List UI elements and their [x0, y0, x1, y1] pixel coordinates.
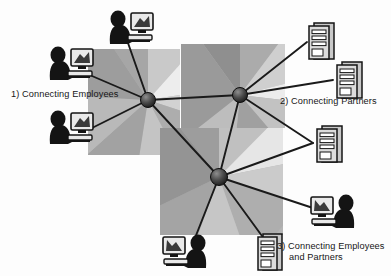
diagram-svg [0, 0, 391, 276]
label-3-line-1: 3) Connecting Employees [277, 241, 385, 251]
network-diagram-canvas: 1) Connecting Employees 2) Connecting Pa… [0, 0, 391, 276]
server-tower-icon [317, 126, 342, 162]
label-3-line-2: and Partners [277, 252, 385, 263]
person-computer-icon [311, 195, 354, 229]
person-computer-icon [50, 111, 93, 145]
left-hub-node [141, 93, 156, 108]
label-connecting-partners: 2) Connecting Partners [280, 96, 377, 107]
background-squares [55, 0, 325, 270]
label-connecting-employees: 1) Connecting Employees [11, 89, 119, 100]
server-tower-icon [309, 23, 334, 59]
label-connecting-employees-and-partners: 3) Connecting Employeesand Partners [277, 241, 385, 264]
person-computer-icon [50, 47, 93, 81]
bottom-hub-node [211, 169, 228, 186]
server-tower-icon [337, 62, 362, 98]
person-computer-icon [110, 11, 153, 45]
person-computer-icon [163, 235, 206, 269]
right-hub-node [233, 88, 248, 103]
